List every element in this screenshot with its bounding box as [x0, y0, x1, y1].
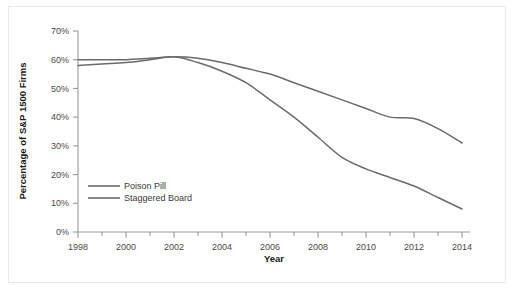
y-tick-label: 50%: [51, 84, 69, 94]
x-tick-label: 2000: [116, 242, 136, 252]
y-axis-ticks: 0%10%20%30%40%50%60%70%: [51, 26, 78, 237]
y-tick-label: 0%: [56, 227, 69, 237]
x-tick-label: 2002: [164, 242, 184, 252]
y-axis-title: Percentage of S&P 1500 Firms: [17, 62, 28, 199]
line-chart: 0%10%20%30%40%50%60%70% 1998200020022004…: [0, 0, 514, 289]
y-tick-label: 30%: [51, 141, 69, 151]
chart-figure: 0%10%20%30%40%50%60%70% 1998200020022004…: [0, 0, 514, 289]
x-axis-title: Year: [264, 253, 284, 264]
x-tick-label: 2014: [452, 242, 472, 252]
x-tick-label: 2012: [404, 242, 424, 252]
legend-label-2: Staggered Board: [124, 193, 192, 203]
x-tick-label: 2006: [260, 242, 280, 252]
plot-area: 0%10%20%30%40%50%60%70% 1998200020022004…: [0, 0, 514, 289]
x-axis-ticks: 199820002002200420062008201020122014: [68, 232, 472, 252]
y-tick-label: 60%: [51, 55, 69, 65]
x-tick-label: 1998: [68, 242, 88, 252]
y-tick-label: 10%: [51, 198, 69, 208]
x-tick-label: 2004: [212, 242, 232, 252]
x-tick-label: 2008: [308, 242, 328, 252]
chart-legend: Poison PillStaggered Board: [88, 181, 192, 203]
x-tick-label: 2010: [356, 242, 376, 252]
y-tick-label: 40%: [51, 112, 69, 122]
legend-label-1: Poison Pill: [124, 181, 166, 191]
y-tick-label: 70%: [51, 26, 69, 36]
y-tick-label: 20%: [51, 170, 69, 180]
